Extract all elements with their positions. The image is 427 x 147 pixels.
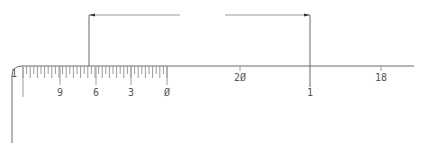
tick-label: 1 (11, 68, 17, 79)
tick-label: 2Ø (234, 72, 246, 83)
tick-label: 18 (375, 72, 387, 83)
tick-label: 9 (57, 87, 63, 98)
scale-drawing: 1963Ø2Ø181 (0, 0, 427, 147)
tick-label: 6 (93, 87, 99, 98)
tick-label: 3 (128, 87, 134, 98)
arrowhead-right-icon (304, 14, 310, 17)
tick-label: Ø (164, 87, 170, 98)
dimension-diagram: 1963Ø2Ø181 (0, 0, 427, 147)
extension-label: 1 (307, 87, 313, 98)
arrowhead-left-icon (89, 14, 95, 17)
